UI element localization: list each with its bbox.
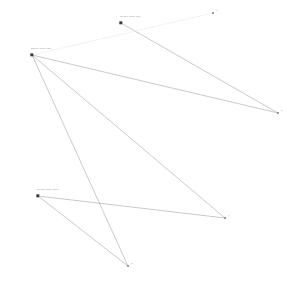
endpoint-marker-icon	[224, 217, 226, 219]
endpoint-marker-icon	[277, 112, 279, 114]
endpoint-marker-icon	[127, 265, 129, 267]
link-n3-e4	[38, 196, 128, 266]
endpoint-marker-icon	[212, 12, 214, 14]
link-n3-e3	[38, 196, 225, 218]
endpoint-label: c	[228, 214, 229, 217]
node-label: source node one	[120, 15, 140, 18]
link-canvas	[0, 0, 290, 292]
link-n2-e1	[32, 13, 213, 55]
node-label: source node two	[31, 47, 51, 50]
node-marker-icon	[30, 53, 33, 56]
link-n2-e3	[32, 55, 225, 218]
link-n2-e4	[32, 55, 128, 266]
endpoint-label: d	[131, 262, 132, 265]
link-n2-e2	[32, 55, 278, 113]
link-layer	[32, 13, 278, 266]
endpoint-label: a	[216, 9, 217, 12]
link-n1-e2	[121, 23, 278, 113]
node-label: source node three	[37, 188, 59, 191]
node-marker-icon	[119, 21, 122, 24]
endpoint-label: b	[281, 109, 282, 112]
network-diagram: source node onesource node twosource nod…	[0, 0, 290, 292]
node-marker-icon	[36, 194, 39, 197]
